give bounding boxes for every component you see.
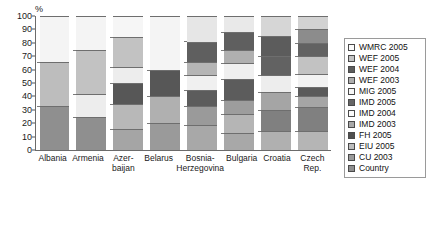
bar-segment[interactable] [261, 36, 291, 56]
bar-segment[interactable] [187, 42, 217, 62]
legend-item[interactable]: CU 2003 [348, 152, 423, 163]
bar-segment[interactable] [298, 74, 328, 87]
bar-segment[interactable] [298, 43, 328, 56]
stacked-bar[interactable] [294, 16, 331, 150]
segment-boundary-tick [221, 32, 224, 33]
legend-item[interactable]: MIG 2005 [348, 86, 423, 97]
segment-boundary-tick [258, 110, 261, 111]
bar-segment[interactable] [224, 114, 254, 133]
legend-swatch-icon [348, 66, 355, 73]
bar-segment[interactable] [150, 96, 180, 123]
legend-swatch-icon [348, 121, 355, 128]
bar-segment[interactable] [298, 29, 328, 42]
bar-segment[interactable] [113, 16, 143, 37]
bar-segment[interactable] [113, 104, 143, 128]
segment-boundary-tick [221, 114, 224, 115]
y-axis-tick-label: 20 [10, 119, 32, 128]
segment-boundary-tick [184, 106, 187, 107]
bar-segment[interactable] [224, 79, 254, 100]
legend-item[interactable]: WEF 2003 [348, 75, 423, 86]
legend-item[interactable]: IMD 2005 [348, 97, 423, 108]
bar-segment[interactable] [113, 67, 143, 83]
bar-segment[interactable] [187, 75, 217, 90]
bar-segment[interactable] [298, 87, 328, 96]
segment-boundary-tick [184, 41, 187, 42]
bars-group [36, 16, 331, 150]
legend-item[interactable]: Country [348, 163, 423, 174]
bar-segment[interactable] [40, 106, 70, 150]
segment-boundary-tick [221, 63, 224, 64]
segment-boundary-tick [73, 117, 76, 118]
bar-segment[interactable] [187, 125, 217, 150]
bar-segment[interactable] [298, 96, 328, 107]
bar-segment[interactable] [224, 133, 254, 150]
bar-segment[interactable] [40, 62, 70, 106]
stacked-bar[interactable] [257, 16, 294, 150]
legend-item[interactable]: IMD 2004 [348, 108, 423, 119]
stacked-bar[interactable] [110, 16, 147, 150]
y-axis-tick-label: 60 [10, 65, 32, 74]
bar-segment[interactable] [113, 83, 143, 104]
bar-segment[interactable] [261, 92, 291, 109]
bar-segment[interactable] [40, 16, 70, 62]
y-axis-tick-label: 90 [10, 25, 32, 34]
bar-segment[interactable] [298, 56, 328, 73]
stacked-bar[interactable] [220, 16, 257, 150]
bar-segment[interactable] [224, 50, 254, 63]
bar-segment[interactable] [224, 63, 254, 79]
stacked-bar[interactable] [147, 16, 184, 150]
y-axis-tick-label: 30 [10, 105, 32, 114]
legend-item[interactable]: WEF 2004 [348, 64, 423, 75]
segment-boundary-tick [295, 107, 298, 108]
legend-label: Country [359, 163, 389, 174]
bar-segment[interactable] [261, 75, 291, 92]
segment-boundary-tick [110, 67, 113, 68]
stacked-bar[interactable] [36, 16, 73, 150]
legend-item[interactable]: IMD 2003 [348, 119, 423, 130]
y-axis-tick-label: 10 [10, 132, 32, 141]
bar-segment[interactable] [224, 100, 254, 113]
x-axis-label: Armenia [70, 153, 105, 183]
bar-segment[interactable] [261, 131, 291, 150]
segment-boundary-tick [258, 75, 261, 76]
bar-segment[interactable] [261, 16, 291, 36]
legend-item[interactable]: WEF 2005 [348, 53, 423, 64]
legend-item[interactable]: EIU 2005 [348, 141, 423, 152]
bar-segment[interactable] [187, 62, 217, 75]
legend-label: IMD 2004 [359, 108, 396, 119]
legend-item[interactable]: WMRC 2005 [348, 42, 423, 53]
bar-segment[interactable] [224, 32, 254, 49]
bar-segment[interactable] [187, 106, 217, 125]
legend-label: FH 2005 [359, 130, 392, 141]
legend-label: EIU 2005 [359, 141, 394, 152]
bar-segment[interactable] [150, 70, 180, 97]
y-axis-tick-label: 70 [10, 52, 32, 61]
legend-swatch-icon [348, 44, 355, 51]
stacked-bar[interactable] [184, 16, 221, 150]
bar-segment[interactable] [113, 37, 143, 66]
bar-segment[interactable] [76, 16, 106, 50]
bar-segment[interactable] [76, 94, 106, 117]
bar-segment[interactable] [150, 16, 180, 70]
bar-segment[interactable] [224, 16, 254, 32]
bar-segment[interactable] [76, 117, 106, 151]
legend-label: WMRC 2005 [359, 42, 408, 53]
stacked-bar[interactable] [73, 16, 110, 150]
bar-segment[interactable] [113, 129, 143, 150]
segment-boundary-tick [258, 56, 261, 57]
segment-boundary-tick [221, 133, 224, 134]
legend-item[interactable]: FH 2005 [348, 130, 423, 141]
bar-segment[interactable] [298, 131, 328, 150]
bar-segment[interactable] [76, 50, 106, 94]
legend-swatch-icon [348, 154, 355, 161]
bar-segment[interactable] [261, 56, 291, 75]
segment-boundary-tick [221, 100, 224, 101]
bar-segment[interactable] [187, 16, 217, 41]
bar-segment[interactable] [298, 16, 328, 29]
bar-segment[interactable] [187, 90, 217, 106]
bar-segment[interactable] [298, 107, 328, 131]
y-axis-tick-label: 100 [10, 12, 32, 21]
x-axis-label: Bulgaria [224, 153, 259, 183]
bar-segment[interactable] [150, 123, 180, 150]
bar-segment[interactable] [261, 110, 291, 131]
